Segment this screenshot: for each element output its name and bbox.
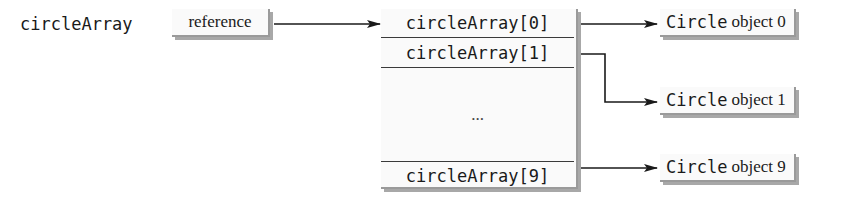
- array-cell-0: circleArray[0]: [381, 9, 574, 37]
- ellipsis-label: ...: [471, 105, 484, 125]
- array-column: circleArray[0] circleArray[1] ... circle…: [381, 9, 578, 189]
- object-9-desc: object 9: [731, 157, 785, 177]
- object-0-desc: object 0: [731, 12, 785, 32]
- array-reference-diagram: circleArray reference circleArray[0] cir…: [0, 0, 854, 200]
- array-ellipsis: ...: [381, 67, 574, 161]
- element-1-arrow: [580, 54, 657, 102]
- object-0-type: Circle: [666, 12, 727, 32]
- array-cell-0-label: circleArray[0]: [406, 13, 549, 33]
- circle-object-0-box: Circle object 0: [660, 9, 796, 37]
- array-cell-9-label: circleArray[9]: [406, 166, 549, 186]
- circle-object-9-box: Circle object 9: [660, 154, 796, 182]
- array-cell-1-label: circleArray[1]: [406, 43, 549, 63]
- object-1-type: Circle: [666, 90, 727, 110]
- reference-label: reference: [188, 12, 251, 32]
- variable-name-label: circleArray: [20, 12, 133, 36]
- object-1-desc: object 1: [731, 90, 785, 110]
- array-cell-9: circleArray[9]: [381, 161, 574, 189]
- circle-object-1-box: Circle object 1: [660, 87, 796, 115]
- reference-box: reference: [172, 9, 270, 37]
- array-cell-1: circleArray[1]: [381, 37, 574, 67]
- object-9-type: Circle: [666, 157, 727, 177]
